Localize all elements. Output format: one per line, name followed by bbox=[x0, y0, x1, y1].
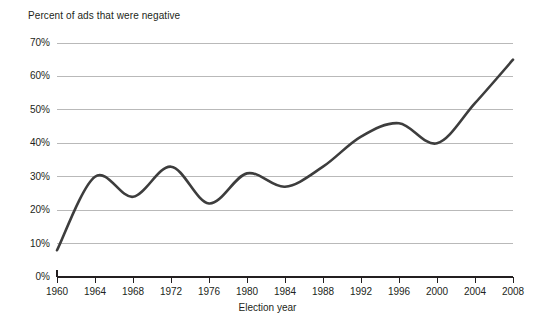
x-axis-tick-label: 1980 bbox=[227, 287, 267, 297]
x-axis-tick-label: 1984 bbox=[265, 287, 305, 297]
y-axis-tick-label: 60% bbox=[18, 71, 50, 81]
x-axis-tick-label: 1992 bbox=[341, 287, 381, 297]
y-axis-tick-label: 50% bbox=[18, 105, 50, 115]
x-axis-tick-label: 2004 bbox=[455, 287, 495, 297]
y-axis-tick-label: 20% bbox=[18, 205, 50, 215]
data-series-line bbox=[57, 60, 513, 251]
y-axis-tick-label: 0% bbox=[18, 272, 50, 282]
x-axis-tick-label: 2008 bbox=[493, 287, 533, 297]
negative-ads-line-chart: Percent of ads that were negative 70%60%… bbox=[0, 0, 535, 327]
y-axis-tick-label: 70% bbox=[18, 38, 50, 48]
y-axis-tick-label: 40% bbox=[18, 138, 50, 148]
x-axis-tick-label: 1976 bbox=[189, 287, 229, 297]
x-axis-tick-label: 1996 bbox=[379, 287, 419, 297]
x-axis-tick-label: 1988 bbox=[303, 287, 343, 297]
chart-plot-area bbox=[0, 0, 535, 327]
y-axis-tick-label: 10% bbox=[18, 239, 50, 249]
x-axis-tick-label: 1964 bbox=[75, 287, 115, 297]
x-axis-title: Election year bbox=[0, 302, 535, 314]
gridlines-group bbox=[57, 43, 513, 244]
x-axis-tick-label: 2000 bbox=[417, 287, 457, 297]
x-axis-tick-label: 1960 bbox=[37, 287, 77, 297]
x-axis-tick-marks bbox=[58, 277, 514, 283]
x-axis-tick-label: 1972 bbox=[151, 287, 191, 297]
y-axis-tick-label: 30% bbox=[18, 172, 50, 182]
x-axis-tick-label: 1968 bbox=[113, 287, 153, 297]
